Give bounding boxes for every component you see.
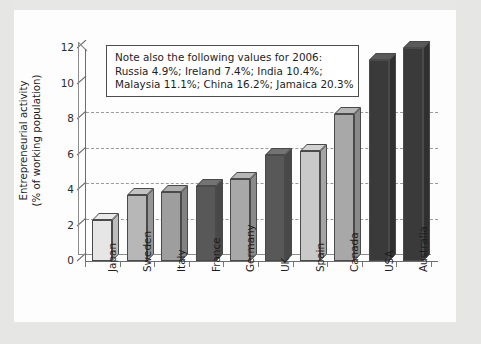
x-tick-label: Canada [348, 232, 360, 272]
x-tick-label: Sweden [141, 231, 153, 272]
x-tick-label: France [210, 237, 222, 272]
bar-front-face [369, 60, 389, 261]
x-tick-label: Spain [314, 243, 326, 272]
bar-side-face [389, 53, 396, 261]
bar-side-face [285, 148, 292, 262]
bar-usa [369, 53, 389, 261]
x-tick-label: Japan [106, 243, 118, 272]
y-tick-label: 10 [52, 78, 74, 88]
bar-uk [265, 148, 285, 262]
x-tick-label: USA [383, 250, 395, 272]
chart-figure: 024681012 JapanSwedenItalyFranceGermanyU… [0, 0, 481, 344]
y-tick-label: 2 [52, 220, 74, 230]
y-tick-label: 8 [52, 113, 74, 123]
y-axis-title-line1: Entrepreneurial activity [18, 51, 31, 231]
y-tick-label: 6 [52, 149, 74, 159]
note-line-1: Note also the following values for 2006: [115, 51, 351, 65]
note-line-2: Russia 4.9%; Ireland 7.4%; India 10.4%; [115, 65, 351, 79]
y-axis-back-line [78, 42, 79, 255]
y-axis-line [85, 49, 86, 262]
y-tick-label: 12 [52, 42, 74, 52]
x-tick-label: Australia [417, 226, 429, 272]
plot-area: 024681012 JapanSwedenItalyFranceGermanyU… [0, 0, 481, 344]
x-tick-label: Germany [244, 224, 256, 272]
bar-front-face [265, 155, 285, 262]
y-axis-title-line2: (% of working population) [30, 51, 43, 231]
note-line-3: Malaysia 11.1%; China 16.2%; Jamaica 20.… [115, 78, 351, 92]
x-tick-label: Italy [175, 249, 187, 272]
note-annotation-box: Note also the following values for 2006:… [106, 45, 359, 97]
y-axis-title: Entrepreneurial activity (% of working p… [18, 51, 43, 231]
y-tick-label: 4 [52, 184, 74, 194]
y-tick-label: 0 [52, 255, 74, 265]
x-tick-label: UK [279, 258, 291, 272]
y-axis-perspective-line [78, 42, 88, 52]
